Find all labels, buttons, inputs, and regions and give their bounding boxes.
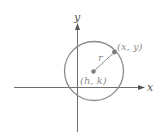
radius-label: r (98, 52, 104, 63)
center-point (91, 69, 95, 73)
radius-segment (94, 52, 115, 72)
y-axis-label: y (73, 11, 81, 24)
circle-diagram: x y r (h, k) (x, y) (0, 0, 162, 140)
y-axis-arrow-icon (75, 23, 80, 30)
point-label: (x, y) (117, 41, 143, 52)
center-label: (h, k) (80, 75, 107, 86)
x-axis-label: x (147, 81, 154, 94)
x-axis-arrow-icon (138, 85, 145, 90)
